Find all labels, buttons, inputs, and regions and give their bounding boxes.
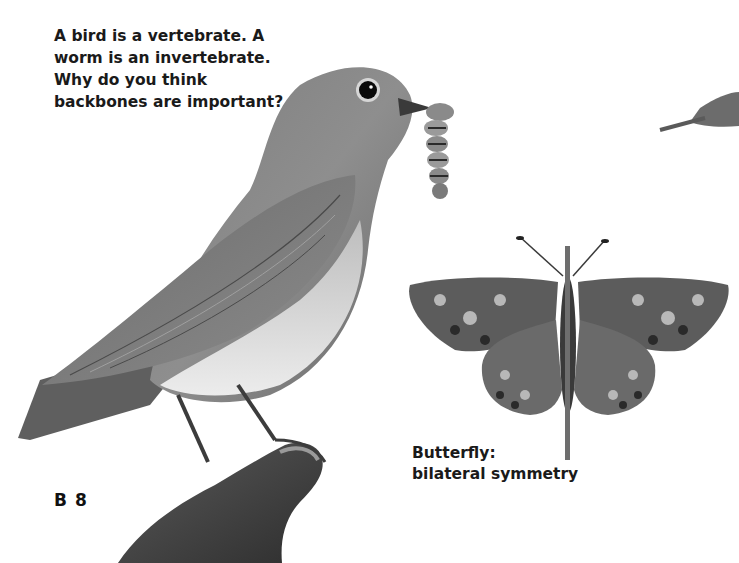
- question-line: A bird is a vertebrate. A: [54, 25, 314, 47]
- question-line: Why do you think: [54, 69, 314, 91]
- partial-insect-image: [660, 92, 739, 130]
- page-number: B 8: [54, 490, 88, 510]
- bird-image: [18, 67, 432, 462]
- caption-line: Butterfly:: [412, 443, 578, 464]
- caption-line: bilateral symmetry: [412, 464, 578, 485]
- caterpillar-image: [424, 103, 454, 199]
- branch-image: [118, 443, 323, 563]
- question-text: A bird is a vertebrate. A worm is an inv…: [54, 25, 314, 113]
- symmetry-line: [565, 246, 570, 460]
- butterfly-caption: Butterfly: bilateral symmetry: [412, 443, 578, 485]
- question-line: backbones are important?: [54, 91, 314, 113]
- question-line: worm is an invertebrate.: [54, 47, 314, 69]
